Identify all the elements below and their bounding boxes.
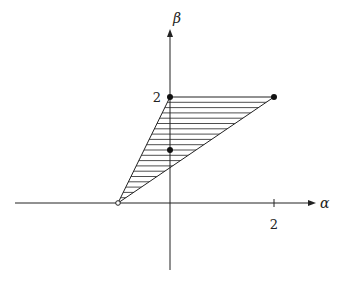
hatched-region bbox=[100, 97, 290, 203]
x-axis-label: α bbox=[320, 195, 330, 211]
region-diagram: 2 α 2 β bbox=[0, 0, 337, 284]
point-0-2 bbox=[167, 94, 173, 100]
x-axis: 2 α bbox=[15, 195, 330, 232]
open-point-neg1-0 bbox=[116, 201, 121, 206]
y-axis: 2 β bbox=[153, 10, 181, 270]
x-axis-arrow-icon bbox=[308, 200, 316, 206]
y-axis-arrow-icon bbox=[167, 29, 173, 37]
point-0-1 bbox=[167, 147, 173, 153]
y-tick-label: 2 bbox=[153, 90, 161, 105]
y-axis-label: β bbox=[172, 10, 181, 26]
point-2-2 bbox=[271, 94, 277, 100]
x-tick-label: 2 bbox=[270, 217, 278, 232]
